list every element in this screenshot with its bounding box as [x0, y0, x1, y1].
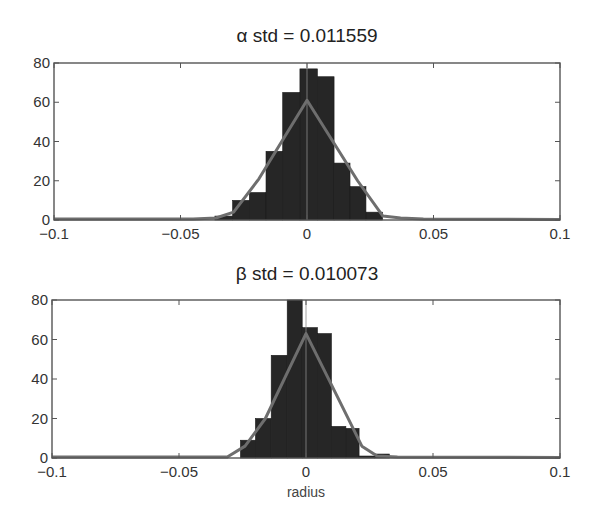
x-tick-label: 0.1: [550, 463, 571, 480]
histogram-bar: [302, 328, 317, 458]
y-tick-label: 60: [31, 331, 48, 348]
y-tick-label: 40: [33, 133, 50, 150]
y-tick-label: 0: [40, 449, 48, 466]
x-tick-label: −0.05: [160, 463, 198, 480]
y-tick-label: 80: [31, 291, 48, 308]
histogram-bar: [249, 193, 266, 220]
histogram-figure: α std = 0.011559 −0.1−0.0500.050.1020406…: [0, 0, 595, 528]
histogram-bar: [317, 334, 331, 458]
histogram-bar: [271, 355, 287, 458]
histogram-bar: [346, 428, 359, 458]
y-tick-label: 40: [31, 370, 48, 387]
beta-histogram-panel: β std = 0.010073 −0.1−0.0500.050.1020406…: [31, 263, 570, 500]
x-tick-label: −0.05: [162, 225, 200, 242]
y-tick-label: 0: [42, 211, 50, 228]
alpha-plot-title: α std = 0.011559: [236, 25, 377, 46]
x-axis-label: radius: [287, 484, 325, 500]
x-tick-label: 0.05: [418, 463, 447, 480]
histogram-bar: [334, 163, 350, 220]
x-tick-label: 0.1: [550, 225, 571, 242]
x-tick-label: 0: [303, 225, 311, 242]
histogram-bar: [300, 69, 317, 220]
histogram-bar: [283, 92, 300, 220]
histogram-bar: [317, 77, 334, 220]
histogram-bar: [331, 426, 345, 458]
beta-histogram-bars: [240, 300, 389, 458]
x-tick-label: 0.05: [419, 225, 448, 242]
y-tick-label: 20: [31, 410, 48, 427]
histogram-bar: [287, 300, 302, 458]
beta-plot-title: β std = 0.010073: [236, 263, 378, 284]
alpha-histogram-bars: [215, 63, 383, 220]
alpha-histogram-panel: α std = 0.011559 −0.1−0.0500.050.1020406…: [33, 25, 570, 242]
x-tick-label: 0: [302, 463, 310, 480]
y-tick-label: 20: [33, 172, 50, 189]
y-tick-label: 80: [33, 54, 50, 71]
y-tick-label: 60: [33, 93, 50, 110]
histogram-bar: [255, 419, 271, 459]
